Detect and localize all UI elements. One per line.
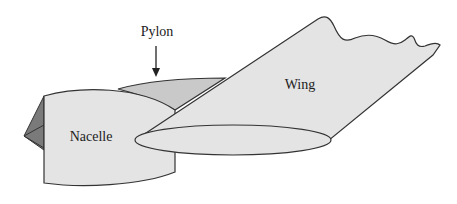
diagram-canvas: Pylon Wing Nacelle (0, 0, 457, 204)
wing-root-airfoil (135, 125, 331, 155)
nacelle-label: Nacelle (70, 129, 113, 144)
pylon-label: Pylon (141, 24, 174, 39)
pylon-arrow-head-icon (152, 68, 160, 77)
wing-label: Wing (285, 77, 316, 92)
